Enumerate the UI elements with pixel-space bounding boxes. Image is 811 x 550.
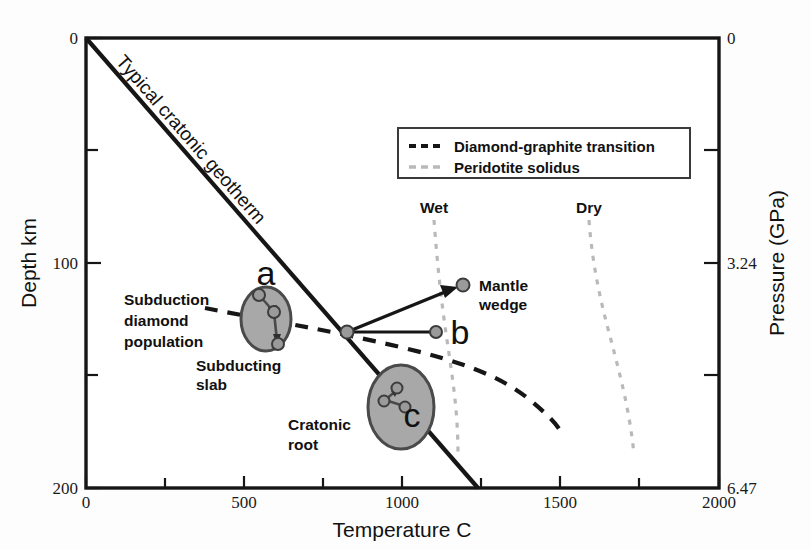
y-left-tick-label-100: 100 (53, 254, 79, 273)
y-left-tick-label-0: 0 (70, 29, 79, 48)
subduction-population-label-line1: Subduction (124, 291, 209, 308)
population-a-point-3 (272, 338, 284, 350)
x-tick-label-1500: 1500 (543, 493, 577, 512)
subduction-population-label-line2: diamond (124, 312, 189, 329)
y-left-tick-label-200: 200 (53, 479, 79, 498)
population-c-point-2 (379, 396, 390, 407)
y-right-tick-label-0: 0 (727, 29, 736, 48)
mantle-wedge-label-line2: wedge (478, 296, 528, 313)
subducting-slab-label-line2: slab (196, 376, 227, 393)
legend-label-diamond-graphite: Diamond-graphite transition (454, 138, 655, 155)
y-left-axis-title: Depth km (17, 218, 40, 308)
point-mantle-wedge (457, 279, 470, 292)
subduction-population-label-line3: population (124, 333, 203, 350)
x-axis-title: Temperature C (333, 518, 472, 541)
y-right-tick-label-647: 6.47 (727, 479, 757, 498)
population-label-a: a (257, 254, 276, 292)
figure-container: 0 500 1000 1500 2000 0 100 200 0 3.24 6.… (0, 0, 811, 550)
mantle-wedge-label-line1: Mantle (479, 277, 528, 294)
cratonic-root-label-line2: root (288, 436, 318, 453)
population-c-point-1 (392, 383, 403, 394)
population-label-c: c (404, 396, 421, 434)
x-tick-label-500: 500 (231, 493, 257, 512)
subducting-slab-label-line1: Subducting (196, 357, 281, 374)
legend-label-peridotite-solidus: Peridotite solidus (454, 159, 580, 176)
diagram-svg: 0 500 1000 1500 2000 0 100 200 0 3.24 6.… (0, 0, 811, 550)
y-right-tick-label-324: 3.24 (727, 254, 757, 273)
cratonic-root-label-line1: Cratonic (288, 416, 351, 433)
population-label-b: b (451, 313, 470, 351)
wet-solidus-label: Wet (420, 199, 448, 216)
x-tick-label-1000: 1000 (385, 493, 419, 512)
legend: Diamond-graphite transition Peridotite s… (398, 128, 690, 178)
dry-solidus-label: Dry (576, 199, 602, 216)
point-hub-origin (341, 326, 354, 339)
point-b (430, 326, 442, 338)
y-right-axis-title: Pressure (GPa) (765, 190, 788, 336)
population-a-point-2 (268, 306, 280, 318)
x-tick-label-0: 0 (82, 493, 91, 512)
